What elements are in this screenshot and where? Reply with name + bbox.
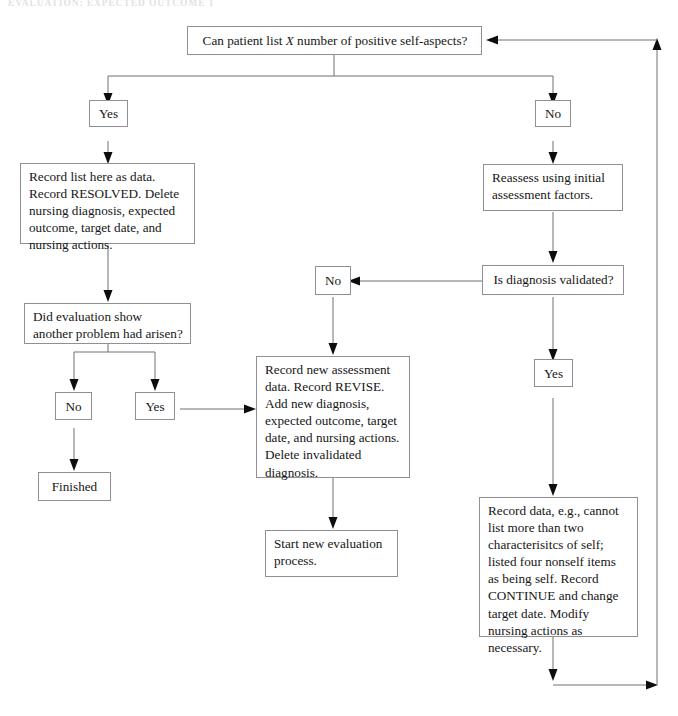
node-label: Is diagnosis validated? <box>493 271 613 288</box>
node-can-patient-list[interactable]: Can patient list X number of positive se… <box>187 26 482 55</box>
node-validated-yes[interactable]: Yes <box>534 359 573 387</box>
arrowhead-eval-yes-to-revise <box>244 405 256 414</box>
node-is-diagnosis-validated[interactable]: Is diagnosis validated? <box>482 265 624 295</box>
node-label: Start new evaluation process. <box>274 536 382 568</box>
node-label: Record list here as data. Record RESOLVE… <box>29 169 179 252</box>
node-did-evaluation-show[interactable]: Did evaluation show another problem had … <box>24 303 191 344</box>
arrowhead-eval-yes <box>151 379 160 391</box>
arrowhead-loop-into-top <box>486 36 498 45</box>
question-text-before: Can patient list <box>203 33 286 48</box>
node-label: Record data, e.g., cannot list more than… <box>488 503 619 655</box>
node-label: Can patient list X number of positive se… <box>203 32 468 49</box>
node-label: Record new assessment data. Record REVIS… <box>265 362 399 480</box>
node-label: No <box>545 105 561 122</box>
node-reassess-initial[interactable]: Reassess using initial assessment factor… <box>483 164 623 211</box>
node-yes-left[interactable]: Yes <box>89 100 128 127</box>
node-record-continue[interactable]: Record data, e.g., cannot list more than… <box>479 497 638 637</box>
arrowhead-no-to-revise <box>329 343 338 355</box>
arrowhead-to-start-new <box>329 517 338 529</box>
arrowhead-to-continue <box>549 484 558 496</box>
question-italic-x: X <box>286 33 294 48</box>
node-label: Did evaluation show another problem had … <box>33 309 183 341</box>
node-label: Yes <box>145 398 164 415</box>
arrowhead-eval-no <box>70 379 79 391</box>
node-label: Yes <box>99 105 118 122</box>
arrowhead-to-reassess <box>549 152 558 164</box>
node-label: Reassess using initial assessment factor… <box>492 170 605 202</box>
node-label: Yes <box>544 365 563 382</box>
arrowhead-to-finished <box>70 459 79 471</box>
node-start-new-evaluation[interactable]: Start new evaluation process. <box>265 530 398 577</box>
question-text-after: number of positive self-aspects? <box>294 33 468 48</box>
node-evaluation-yes[interactable]: Yes <box>135 392 175 420</box>
node-label: No <box>65 398 81 415</box>
arrowhead-to-did-eval <box>104 290 113 302</box>
arrowhead-to-validated <box>549 251 558 263</box>
flowchart-page: EVALUATION: EXPECTED OUTCOME 1 <box>0 0 678 716</box>
arrowhead-continue-right <box>646 681 658 690</box>
node-validated-no[interactable]: No <box>315 266 351 295</box>
node-finished[interactable]: Finished <box>38 472 111 501</box>
node-evaluation-no[interactable]: No <box>55 392 92 420</box>
node-label: Finished <box>52 478 97 495</box>
node-no-right[interactable]: No <box>535 100 571 127</box>
node-record-resolved[interactable]: Record list here as data. Record RESOLVE… <box>20 163 195 244</box>
node-label: No <box>325 272 341 289</box>
node-record-revise[interactable]: Record new assessment data. Record REVIS… <box>256 356 410 478</box>
arrowhead-continue-down <box>549 669 558 681</box>
